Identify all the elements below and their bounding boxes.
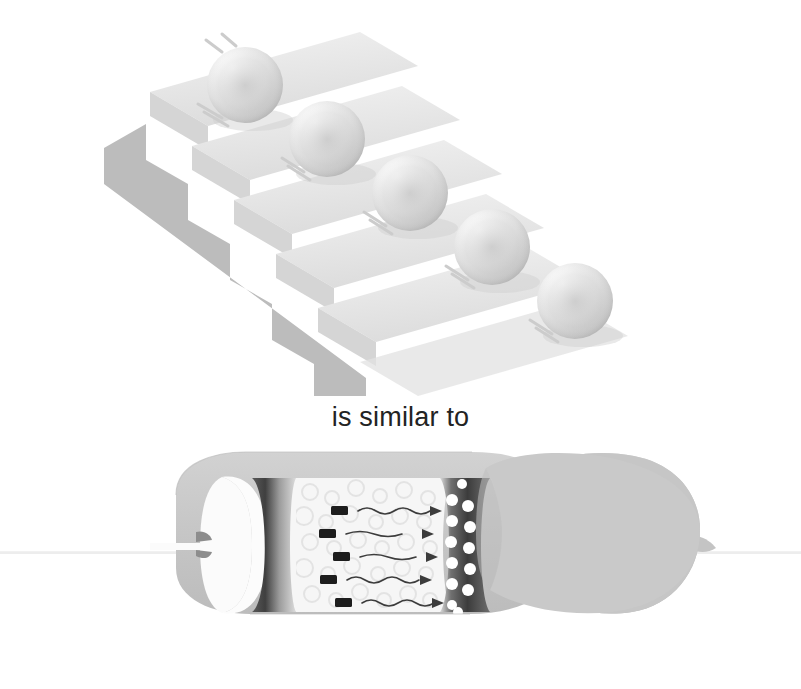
sphere-3 xyxy=(372,155,448,231)
vesicle xyxy=(462,500,474,512)
particle xyxy=(320,575,337,584)
vesicle xyxy=(464,563,476,575)
particle xyxy=(333,552,350,561)
vesicle xyxy=(446,515,458,527)
vesicle xyxy=(463,542,475,554)
interior-channel xyxy=(290,478,452,612)
analogy-figure: is similar to xyxy=(0,0,801,689)
vesicle xyxy=(446,557,458,569)
sphere-1 xyxy=(207,47,283,123)
particle xyxy=(331,506,348,515)
vesicle xyxy=(464,521,476,533)
caption-text: is similar to xyxy=(332,402,470,433)
staircase-illustration xyxy=(0,0,801,400)
caption-row: is similar to xyxy=(0,392,801,442)
vesicle xyxy=(445,536,457,548)
particle xyxy=(335,598,352,607)
sphere-5 xyxy=(537,263,613,339)
vesicle xyxy=(462,584,474,596)
membrane-illustration xyxy=(0,440,801,689)
sphere-2 xyxy=(289,101,365,177)
vesicle xyxy=(446,494,458,506)
vesicle xyxy=(453,607,463,617)
sphere-4 xyxy=(454,209,530,285)
particle xyxy=(319,529,336,538)
vesicle xyxy=(446,578,458,590)
vesicle xyxy=(457,479,467,489)
